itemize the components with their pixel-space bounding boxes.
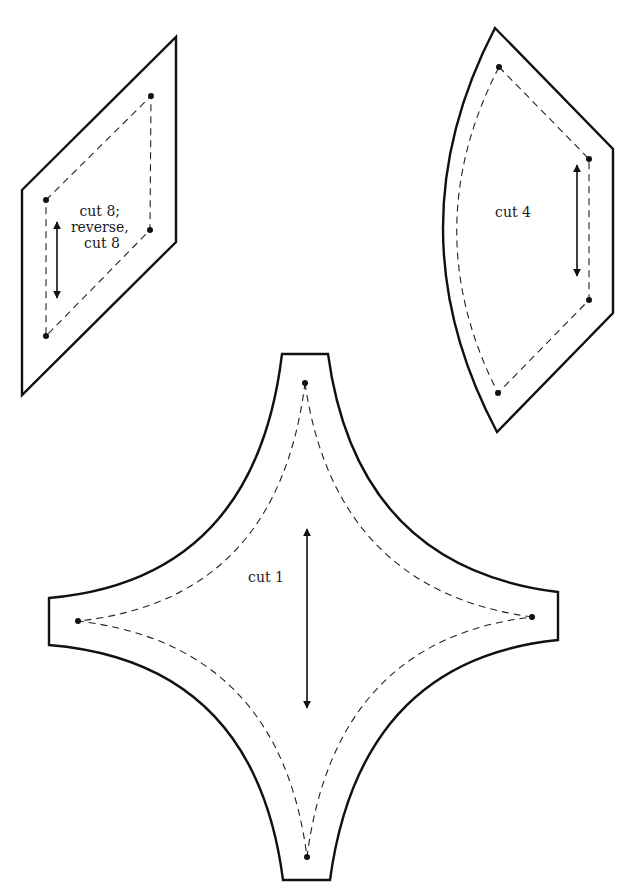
arc-corner-dot [496,64,502,70]
center-cut-line [49,354,558,880]
arc-label: cut 4 [495,204,531,220]
center-point-dot [302,380,308,386]
pattern-sheet: cut 8; reverse, cut 8 cut 4 cut 1 [0,0,642,892]
center-point-dot [304,854,310,860]
arc-corner-dot [586,156,592,162]
center-label: cut 1 [248,569,284,585]
center-point-dot [75,618,81,624]
diamond-corner-dot [147,227,153,233]
piece-arc: cut 4 [443,28,613,432]
diamond-corner-dot [148,93,154,99]
piece-center: cut 1 [49,354,558,880]
center-point-dot [529,614,535,620]
arc-cut-line [443,28,613,432]
diamond-corner-dot [43,197,49,203]
arc-corner-dot [586,297,592,303]
arc-corner-dot [495,390,501,396]
diamond-corner-dot [43,333,49,339]
piece-diamond: cut 8; reverse, cut 8 [22,37,176,395]
